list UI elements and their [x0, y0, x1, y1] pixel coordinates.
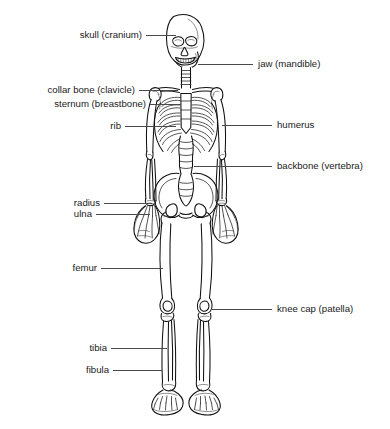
lumbar-spine-group	[179, 135, 193, 175]
label-skull: skull (cranium)	[80, 29, 142, 40]
label-humerus: humerus	[277, 119, 315, 130]
label-sternum: sternum (breastbone)	[54, 98, 146, 109]
label-ulna: ulna	[74, 208, 93, 219]
label-backbone: backbone (vertebra)	[277, 160, 363, 171]
label-patella: knee cap (patella)	[277, 303, 353, 314]
sternum-group	[181, 93, 192, 134]
skull-group	[167, 14, 204, 68]
skeleton-diagram-page: skull (cranium) collar bone (clavicle) s…	[0, 0, 390, 429]
left-leg-group	[152, 212, 183, 415]
label-tibia: tibia	[89, 342, 107, 353]
label-rib: rib	[110, 120, 121, 131]
label-clavicle: collar bone (clavicle)	[48, 84, 135, 95]
label-fibula: fibula	[86, 364, 110, 375]
label-femur: femur	[72, 262, 97, 273]
cervical-spine-group	[180, 67, 192, 88]
skeleton-diagram-svg: skull (cranium) collar bone (clavicle) s…	[0, 0, 390, 429]
right-leg-group	[189, 212, 220, 415]
label-jaw: jaw (mandible)	[257, 58, 320, 69]
right-arm-group	[212, 99, 238, 243]
skeleton-figure	[134, 14, 238, 414]
pelvis-group	[154, 173, 219, 218]
left-arm-group	[134, 99, 160, 243]
label-radius: radius	[74, 197, 100, 208]
